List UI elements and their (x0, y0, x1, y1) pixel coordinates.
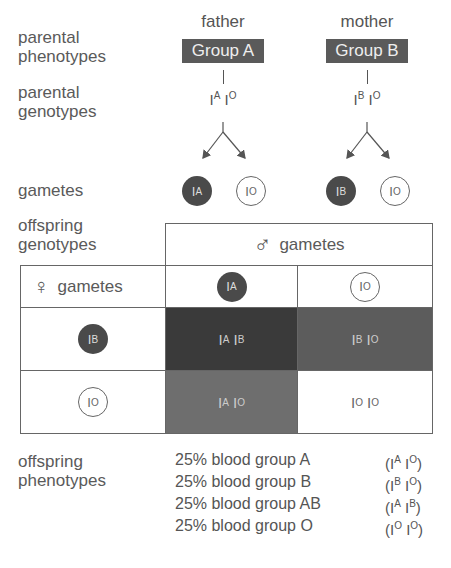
gamete-col-o: IO (350, 272, 380, 302)
phenotype-list: 25% blood group A 25% blood group B 25% … (175, 449, 321, 537)
label-line: offspring (18, 216, 96, 235)
male-gametes-label: gametes (279, 235, 344, 255)
cell-ao: IA IO (165, 370, 298, 434)
gamete-col-a: IA (217, 272, 247, 302)
phenotype-item: 25% blood group O (175, 515, 321, 537)
phenotype-item: 25% blood group AB (175, 493, 321, 515)
cell-oo: IO IO (297, 370, 433, 434)
gamete-father-o: IO (236, 176, 266, 206)
female-gametes-label: gametes (58, 277, 123, 297)
male-symbol-icon: ♂ (253, 231, 271, 259)
label-offspring-phenotypes: offspring phenotypes (18, 452, 106, 490)
label-offspring-genotypes: offspring genotypes (18, 216, 96, 254)
gamete-mother-b: IB (326, 176, 356, 206)
phenotype-genotype-list: (IA IO) (IB IO) (IA IB) (IO IO) (385, 449, 423, 537)
phenotype-genotype: (IO IO) (385, 515, 423, 537)
column-header-a: IA (165, 265, 298, 308)
cell-ab: IA IB (165, 307, 298, 371)
label-gametes: gametes (18, 181, 83, 200)
label-line: genotypes (18, 235, 96, 254)
row-header-b: IB (20, 307, 166, 371)
phenotype-genotype: (IA IO) (385, 449, 423, 471)
gamete-father-a: IA (182, 176, 212, 206)
female-symbol-icon: ♀ (33, 274, 50, 300)
gamete-mother-o: IO (380, 176, 410, 206)
male-gametes-header: ♂ gametes (165, 223, 433, 266)
phenotype-genotype: (IA IB) (385, 493, 423, 515)
cell-bo: IB IO (297, 307, 433, 371)
meiosis-arrows-icon (0, 0, 451, 180)
label-line: phenotypes (18, 471, 106, 490)
phenotype-item: 25% blood group A (175, 449, 321, 471)
row-header-o: IO (20, 370, 166, 434)
gamete-row-o: IO (78, 387, 108, 417)
gamete-row-b: IB (78, 324, 108, 354)
phenotype-genotype: (IB IO) (385, 471, 423, 493)
phenotype-item: 25% blood group B (175, 471, 321, 493)
female-gametes-header: ♀ gametes (20, 265, 166, 308)
column-header-o: IO (297, 265, 433, 308)
label-line: offspring (18, 452, 106, 471)
